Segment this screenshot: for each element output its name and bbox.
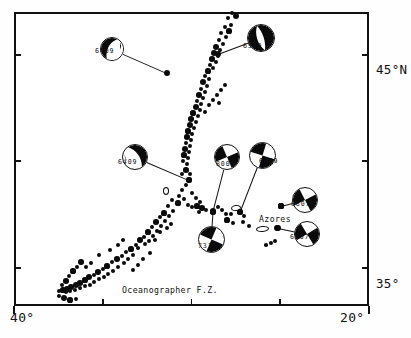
epicenter-dot	[205, 68, 210, 73]
epicenter-dot	[161, 210, 166, 215]
epicenter-dot	[137, 237, 143, 243]
epicenter-dot	[190, 132, 194, 136]
mechanism-label-6409: 6409	[95, 47, 114, 55]
mechanism-label-6607: 6607	[290, 233, 309, 241]
epicenter-dot	[190, 110, 195, 115]
latitude-label-45n: 45°N	[376, 62, 407, 77]
epicenter-dot	[63, 278, 69, 284]
epicenter-dot	[203, 90, 207, 94]
epicenter-dot	[61, 295, 67, 301]
longitude-label-20w: 20°	[340, 310, 364, 325]
lat-tick-40-right	[362, 160, 369, 162]
mechanism-epicenter-dot	[278, 203, 283, 208]
epicenter-dot	[199, 102, 203, 106]
map-frame	[14, 12, 369, 306]
mechanism-label-6607: 6607	[291, 200, 310, 208]
island-outline	[163, 187, 170, 195]
epicenter-dot	[64, 290, 68, 294]
epicenter-dot	[224, 217, 229, 222]
epicenter-dot	[153, 219, 159, 225]
latitude-label-35n: 35°	[376, 276, 399, 291]
epicenter-dot	[226, 16, 230, 20]
mechanism-epicenter-dot	[210, 209, 216, 215]
epicenter-dot	[188, 116, 194, 122]
seismicity-map-figure: 64096509640980016409731166076607 AzoresO…	[0, 0, 411, 338]
epicenter-dot	[165, 226, 169, 230]
epicenter-dot	[247, 224, 251, 228]
epicenter-dot	[78, 259, 84, 265]
epicenter-dot	[116, 265, 120, 269]
epicenter-dot	[121, 238, 125, 242]
epicenter-dot	[207, 77, 211, 81]
epicenter-dot	[226, 28, 231, 33]
epicenter-dot	[131, 268, 135, 272]
focal-mechanism-beachball-6409	[122, 144, 148, 170]
epicenter-dot	[190, 191, 194, 195]
epicenter-dot	[214, 60, 218, 64]
epicenter-dot	[145, 229, 150, 234]
epicenter-dot	[97, 253, 101, 257]
lon-tick-20	[368, 306, 370, 314]
epicenter-dot	[224, 35, 228, 39]
longitude-label-40w: 40°	[10, 310, 34, 325]
epicenter-dot	[180, 188, 184, 192]
mechanism-label-7311: 7311	[198, 242, 217, 250]
lon-tick-25	[279, 299, 281, 306]
epicenter-dot	[231, 221, 235, 225]
epicenter-dot	[223, 83, 227, 87]
epicenter-dot	[211, 66, 215, 70]
epicenter-dot	[95, 269, 101, 275]
epicenter-dot	[89, 261, 93, 265]
lat-tick-45-left	[14, 54, 21, 56]
epicenter-dot	[147, 239, 151, 243]
epicenter-dot	[203, 110, 207, 114]
epicenter-dot	[148, 251, 152, 255]
lon-tick-30	[191, 299, 193, 306]
epicenter-dot	[215, 93, 219, 97]
mechanism-label-6409: 6409	[118, 158, 137, 166]
epicenter-dot	[264, 243, 268, 247]
mechanism-label-6409: 6409	[259, 157, 278, 165]
epicenter-dot	[188, 144, 192, 148]
lat-tick-35-right	[362, 267, 369, 269]
epicenter-dot	[104, 263, 109, 268]
lat-tick-35-left	[14, 267, 21, 269]
mechanism-label-6509: 6509	[243, 42, 262, 50]
geo-label-oceanographer-f-z: Oceanographer F.Z.	[122, 285, 218, 295]
epicenter-dot	[70, 268, 75, 273]
mechanism-epicenter-dot	[215, 51, 221, 57]
epicenter-dot	[114, 256, 120, 262]
epicenter-dot	[67, 297, 72, 302]
epicenter-dot	[82, 277, 87, 282]
epicenter-dot	[126, 257, 130, 261]
epicenter-dot	[233, 13, 239, 19]
lon-tick-35	[102, 299, 104, 306]
lat-tick-45-right	[362, 54, 369, 56]
epicenter-dot	[163, 219, 167, 223]
epicenter-dot	[128, 246, 133, 251]
mechanism-label-8001: 8001	[216, 160, 235, 168]
epicenter-dot	[106, 272, 110, 276]
epicenter-dot	[185, 162, 189, 166]
epicenter-dot	[136, 246, 140, 250]
lat-tick-40-left	[14, 160, 21, 162]
geo-label-azores: Azores	[259, 214, 291, 224]
epicenter-dot	[175, 200, 180, 205]
